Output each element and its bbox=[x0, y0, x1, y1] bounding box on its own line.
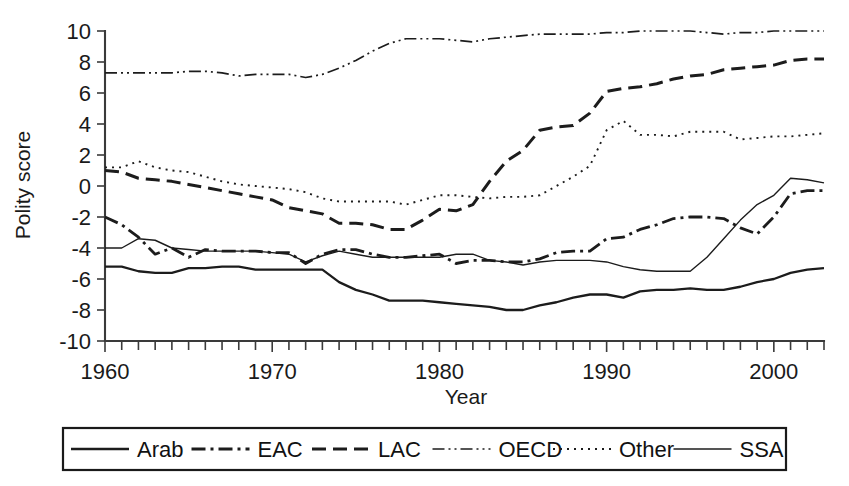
x-axis-title: Year bbox=[445, 385, 487, 408]
series-line-eac bbox=[105, 191, 824, 264]
x-axis-tick-label: 1980 bbox=[415, 359, 464, 384]
y-axis-tick-label: -8 bbox=[71, 298, 91, 323]
legend-label-arab: Arab bbox=[137, 437, 183, 462]
y-axis-tick-label: -6 bbox=[71, 267, 91, 292]
polity-score-line-chart: -10-8-6-4-20246810 19601970198019902000 … bbox=[0, 0, 849, 486]
y-axis-tick-label: 8 bbox=[79, 50, 91, 75]
x-axis-tick-label: 1970 bbox=[248, 359, 297, 384]
y-axis-tick-label: -2 bbox=[71, 205, 91, 230]
x-axis-tick-label: 2000 bbox=[749, 359, 798, 384]
chart-canvas: -10-8-6-4-20246810 19601970198019902000 … bbox=[0, 0, 849, 486]
chart-legend: ArabEACLACOECDOtherSSA bbox=[63, 428, 786, 470]
legend-label-eac: EAC bbox=[258, 437, 303, 462]
series-line-lac bbox=[105, 59, 824, 230]
y-axis-tick-label: 6 bbox=[79, 81, 91, 106]
series-line-ssa bbox=[105, 178, 824, 271]
legend-label-oecd: OECD bbox=[499, 437, 563, 462]
legend-label-other: Other bbox=[619, 437, 674, 462]
y-axis-tick-label: -4 bbox=[71, 236, 91, 261]
legend-label-lac: LAC bbox=[378, 437, 421, 462]
series-line-arab bbox=[105, 267, 824, 310]
x-axis-tick-label: 1990 bbox=[582, 359, 631, 384]
y-axis-tick-label: 2 bbox=[79, 143, 91, 168]
x-axis: 19601970198019902000 bbox=[81, 341, 824, 384]
y-axis-title: Polity score bbox=[11, 131, 34, 240]
series-lines bbox=[105, 31, 824, 310]
legend-label-ssa: SSA bbox=[740, 437, 784, 462]
y-axis: -10-8-6-4-20246810 bbox=[59, 19, 105, 354]
series-line-other bbox=[105, 121, 824, 205]
x-axis-tick-label: 1960 bbox=[81, 359, 130, 384]
y-axis-tick-label: 10 bbox=[67, 19, 91, 44]
y-axis-tick-label: 4 bbox=[79, 112, 91, 137]
y-axis-tick-label: -10 bbox=[59, 329, 91, 354]
y-axis-tick-label: 0 bbox=[79, 174, 91, 199]
